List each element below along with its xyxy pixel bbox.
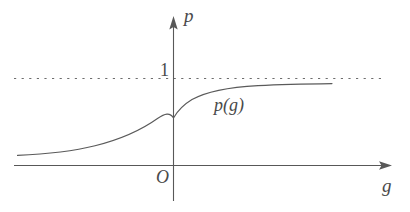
- plot-canvas: [0, 0, 410, 212]
- origin-label: O: [156, 168, 169, 186]
- y-axis-label: p: [184, 6, 194, 25]
- sigmoid-figure: p g 1 O p(g): [0, 0, 410, 212]
- x-axis-label: g: [382, 176, 392, 195]
- asymptote-tick-label: 1: [160, 61, 169, 79]
- curve-label: p(g): [214, 96, 244, 114]
- sigmoid-curve: [18, 84, 333, 156]
